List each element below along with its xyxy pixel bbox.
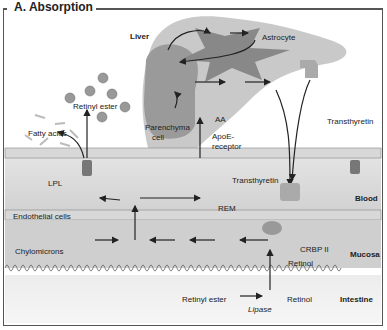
- astrocyte-label: Astrocyte: [262, 34, 295, 42]
- transthyretin-label: Transthyretin: [327, 118, 373, 126]
- blood-label: Blood: [355, 195, 378, 203]
- chylomicrons-label: Chylomicrons: [15, 248, 63, 256]
- endothelial-membrane-top: [5, 148, 381, 158]
- aa-label: AA: [215, 116, 226, 124]
- diagram-graphics: [0, 0, 387, 330]
- lpl-label: LPL: [48, 180, 62, 188]
- fatty-acids-label: Fatty acids: [28, 130, 67, 138]
- crbp2-label: CRBP II: [300, 246, 329, 254]
- retinol-intestine-label: Retinol: [287, 296, 312, 304]
- retinyl-ester-particles: [65, 73, 130, 122]
- retinyl-ester-label: Retinyl ester: [73, 103, 117, 111]
- blood-lpl-receptor: [350, 160, 360, 174]
- crbp2-shape: [262, 221, 282, 235]
- mucosa-label: Mucosa: [350, 251, 380, 259]
- lpl-receptor: [82, 160, 92, 176]
- apoe-receptor-label: receptor: [212, 143, 241, 151]
- liver-shape: [143, 16, 347, 155]
- rem-label: REM: [218, 205, 236, 213]
- transthyretin-shape: [300, 60, 318, 78]
- transthyretin-blood-label: Transthyretin: [232, 177, 278, 185]
- apoe-label: ApoE-: [212, 133, 234, 141]
- transthyretin-rbp-complex: [280, 183, 300, 201]
- liver-label: Liver: [130, 33, 149, 41]
- intestine-label: Intestine: [340, 296, 373, 304]
- retinol-mucosa-label: Retinol: [288, 260, 313, 268]
- retinyl-ester-intestine-label: Retinyl ester: [182, 296, 226, 304]
- endothelial-cells-label: Endothelial cells: [13, 213, 71, 221]
- parenchyma-label: Parenchyma: [145, 124, 190, 132]
- parenchyma-cell-label: cell: [152, 134, 164, 142]
- mucosa-region: [5, 220, 381, 268]
- lipase-label: Lipase: [248, 306, 272, 314]
